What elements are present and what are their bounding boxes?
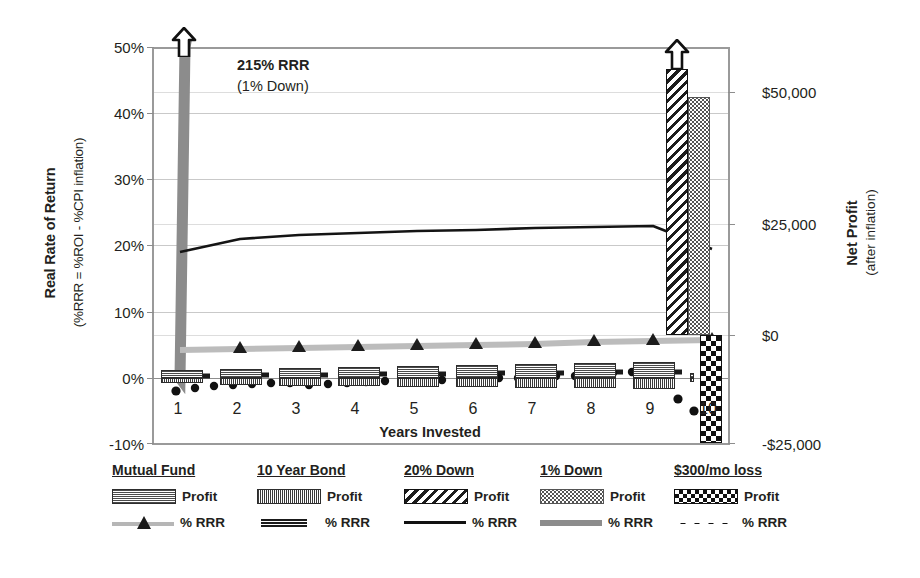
legend-entry-bond-rrr: % RRR: [257, 515, 370, 530]
chart-legend: Mutual Fund Profit % RRR 10 Year Bond Pr…: [112, 462, 812, 572]
tickmark-right-25000: [728, 224, 735, 225]
bar-mutual-y3: [279, 368, 321, 378]
legend-swatch-1pct-rrr-icon: [540, 516, 602, 529]
legend-title-20-percent-down: 20% Down: [404, 462, 517, 478]
legend-entry-20pct-profit: Profit: [404, 489, 517, 504]
right-tick-50000: $50,000: [762, 84, 816, 101]
legend-label-loss-profit: Profit: [744, 489, 779, 504]
legend-title-mutual-fund: Mutual Fund: [112, 462, 225, 478]
legend-label-1pct-rrr: % RRR: [608, 515, 653, 530]
legend-label-loss-rrr: % RRR: [742, 515, 787, 530]
legend-swatch-mutual-rrr-icon: [112, 516, 174, 529]
x-tick-6: 6: [469, 400, 478, 418]
legend-label-20pct-rrr: % RRR: [472, 515, 517, 530]
tickmark-right-50000: [728, 92, 735, 93]
legend-entry-1pct-rrr: % RRR: [540, 515, 653, 530]
legend-title-300mo-loss: $300/mo loss: [674, 462, 787, 478]
legend-swatch-bond-rrr-icon: [257, 516, 319, 529]
x-tick-1: 1: [174, 400, 183, 418]
bar-mutual-y2: [220, 369, 262, 378]
bar-mutual-y4: [338, 367, 380, 378]
legend-swatch-bond-profit-icon: [257, 489, 321, 504]
left-axis-subtitle: (%RRR = %ROI - %CPI inflation): [71, 113, 86, 353]
legend-entry-bond-profit: Profit: [257, 489, 370, 504]
x-tick-2: 2: [233, 400, 242, 418]
tickmark-left-30: [147, 179, 154, 180]
left-tick-40: 40%: [114, 105, 144, 122]
legend-group-10-year-bond: 10 Year Bond Profit % RRR: [257, 462, 370, 530]
tickmark-right-neg25000: [728, 443, 735, 444]
tickmark-left-10: [147, 312, 154, 313]
legend-group-mutual-fund: Mutual Fund Profit % RRR: [112, 462, 225, 530]
tickmark-left-40: [147, 113, 154, 114]
legend-swatch-mutual-profit-icon: [112, 489, 176, 504]
up-arrow-icon-20pct: [664, 39, 690, 69]
legend-entry-20pct-rrr: % RRR: [404, 515, 517, 530]
left-tick-50: 50%: [114, 39, 144, 56]
plot-area: 215% RRR (1% Down): [152, 47, 730, 444]
bar-bond-y9: [633, 378, 675, 389]
tickmark-right-0: [728, 335, 735, 336]
legend-group-1-percent-down: 1% Down Profit % RRR: [540, 462, 653, 530]
legend-swatch-20pct-rrr-icon: [404, 516, 466, 529]
legend-label-1pct-profit: Profit: [610, 489, 645, 504]
tickmark-left-20: [147, 245, 154, 246]
legend-title-10-year-bond: 10 Year Bond: [257, 462, 370, 478]
legend-entry-loss-rrr: % RRR: [674, 515, 787, 530]
legend-entry-mutual-fund-profit: Profit: [112, 489, 225, 504]
bar-mutual-y1: [161, 370, 203, 378]
legend-label-20pct-profit: Profit: [474, 489, 509, 504]
bar-bond-y5: [397, 378, 439, 387]
left-axis-title: Real Rate of Return: [42, 123, 58, 343]
legend-group-20-percent-down: 20% Down Profit % RRR: [404, 462, 517, 530]
legend-entry-1pct-profit: Profit: [540, 489, 653, 504]
tickmark-left-0: [147, 378, 154, 379]
annotation-215-rrr: 215% RRR (1% Down): [237, 55, 310, 97]
bar-mutual-y6: [456, 365, 498, 378]
x-tick-10: 10: [699, 400, 717, 418]
legend-swatch-20pct-profit-icon: [404, 489, 468, 504]
annotation-line-2: (1% Down): [237, 76, 310, 97]
left-tick-0: 0%: [122, 370, 144, 387]
x-tick-7: 7: [528, 400, 537, 418]
x-tick-8: 8: [587, 400, 596, 418]
legend-label-bond-rrr: % RRR: [325, 515, 370, 530]
legend-entry-loss-profit: Profit: [674, 489, 787, 504]
bar-bond-y1: [161, 378, 203, 383]
bar-bond-y3: [279, 378, 321, 386]
bar-bond-y7: [515, 378, 557, 388]
bar-bond-y2: [220, 378, 262, 385]
legend-swatch-1pct-profit-icon: [540, 489, 604, 504]
x-tick-9: 9: [646, 400, 655, 418]
right-tick-25000: $25,000: [762, 216, 816, 233]
legend-label-mutual-rrr: % RRR: [180, 515, 225, 530]
legend-swatch-loss-profit-icon: [674, 489, 738, 504]
bar-bond-y4: [338, 378, 380, 386]
tickmark-left-50: [147, 47, 154, 48]
bar-mutual-y8: [574, 363, 616, 378]
bar-mutual-y5: [397, 366, 439, 378]
bar-20pct-down-y10: [666, 69, 688, 335]
right-tick-0: $0: [762, 327, 779, 344]
x-tick-3: 3: [292, 400, 301, 418]
legend-label-mutual-profit: Profit: [182, 489, 217, 504]
annotation-line-1: 215% RRR: [237, 55, 310, 76]
left-tick-20: 20%: [114, 237, 144, 254]
bar-1pct-down-y10: [688, 97, 710, 335]
right-axis-subtitle: (after inflation): [863, 123, 878, 343]
legend-label-bond-profit: Profit: [327, 489, 362, 504]
chart-container: Real Rate of Return (%RRR = %ROI - %CPI …: [0, 0, 920, 578]
legend-swatch-loss-rrr-icon: [674, 516, 736, 529]
bar-mutual-y7: [515, 364, 557, 378]
bar-bond-y10: [690, 378, 694, 382]
legend-group-300mo-loss: $300/mo loss Profit % RRR: [674, 462, 787, 530]
x-axis-title-text: Years Invested: [379, 424, 481, 440]
legend-entry-mutual-fund-rrr: % RRR: [112, 515, 225, 530]
bar-bond-y8: [574, 378, 616, 388]
x-axis-title: Years Invested: [0, 424, 920, 440]
x-tick-4: 4: [351, 400, 360, 418]
bar-mutual-y9: [633, 362, 675, 378]
x-tick-5: 5: [410, 400, 419, 418]
left-tick-10: 10%: [114, 304, 144, 321]
left-tick-30: 30%: [114, 171, 144, 188]
